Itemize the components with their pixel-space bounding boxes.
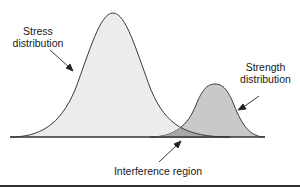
stress-label: Stress distribution xyxy=(8,25,68,49)
strength-label: Strength distribution xyxy=(233,61,298,85)
strength-arrow xyxy=(238,96,259,110)
interference-label: Interference region xyxy=(110,165,206,177)
strength-label-line1: Strength xyxy=(233,61,298,73)
stress-arrow xyxy=(50,50,73,71)
bottom-rule xyxy=(0,185,300,187)
stress-label-line2: distribution xyxy=(8,37,68,49)
strength-label-line2: distribution xyxy=(233,73,298,85)
interference-arrow xyxy=(159,141,181,162)
stress-label-line1: Stress xyxy=(8,25,68,37)
